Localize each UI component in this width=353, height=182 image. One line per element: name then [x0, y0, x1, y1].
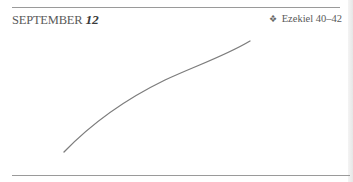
pencil-sketch-line: [0, 0, 353, 182]
bottom-rule: [12, 175, 350, 176]
